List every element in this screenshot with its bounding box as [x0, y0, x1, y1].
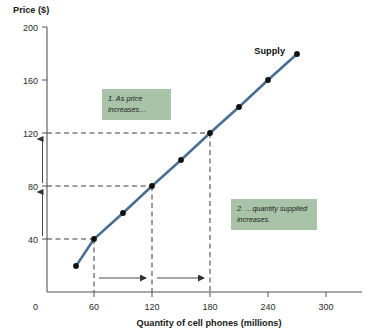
data-point	[73, 263, 79, 269]
data-point	[120, 210, 126, 216]
x-tick-label-60: 60	[89, 302, 99, 312]
supply-line	[76, 54, 297, 266]
y-tick-label-80: 80	[28, 182, 38, 192]
supply-curve-chart: Price ($) Quantity of cell phones (milli…	[0, 0, 369, 333]
y-axis-title: Price ($)	[13, 5, 49, 15]
callout-1-line-2: increases…	[108, 105, 147, 114]
y-axis-tick-labels: 200 160 120 80 40 0	[23, 23, 38, 313]
data-point	[265, 77, 271, 83]
callout-2: 2. …quantity supplied increases.	[231, 199, 317, 230]
callout-2-line-1: 2. …quantity supplied	[236, 204, 308, 213]
data-point	[91, 236, 97, 242]
data-point	[236, 104, 242, 110]
x-tick-label-300: 300	[318, 302, 333, 312]
data-point	[149, 183, 155, 189]
y-tick-label-120: 120	[23, 129, 38, 139]
supply-series-label: Supply	[254, 46, 286, 56]
y-tick-label-0: 0	[33, 302, 38, 312]
y-tick-label-160: 160	[23, 76, 38, 86]
data-point	[178, 157, 184, 163]
data-point	[207, 130, 213, 136]
callout-2-line-2: increases.	[237, 215, 270, 224]
supply-data-points	[73, 51, 300, 269]
y-tick-label-40: 40	[28, 235, 38, 245]
data-point	[294, 51, 300, 57]
x-tick-label-240: 240	[260, 302, 275, 312]
x-axis-tick-labels: 60 120 180 240 300	[89, 302, 334, 312]
x-axis-title: Quantity of cell phones (millions)	[137, 318, 282, 328]
x-axis-ticks	[94, 292, 326, 297]
callout-1-line-1: 1. As price	[108, 94, 142, 103]
callout-1: 1. As price increases…	[102, 89, 171, 120]
x-tick-label-120: 120	[144, 302, 159, 312]
x-tick-label-180: 180	[202, 302, 217, 312]
y-tick-label-200: 200	[23, 23, 38, 33]
